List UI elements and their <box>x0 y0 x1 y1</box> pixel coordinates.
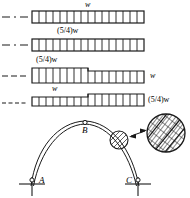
course-2-bricks <box>32 39 144 51</box>
course-3-bricks <box>32 68 144 83</box>
course-3-top-label: (5/4)w <box>36 56 57 64</box>
detail-callout-circle <box>106 124 130 152</box>
detail-arrow-head-left <box>129 134 136 139</box>
course-4-right-label: (5/4)w <box>148 96 169 104</box>
brick-arch-figure: w (5/4)w (5/4)w w w (5/4)w A B C <box>0 0 190 198</box>
arch-point-a-label: A <box>39 176 45 185</box>
course-2-top-label: (5/4)w <box>57 27 78 35</box>
arch-point-b-marker <box>83 120 87 124</box>
course-3-right-label: w <box>150 72 155 80</box>
arch-point-c-marker <box>136 178 140 182</box>
arch-point-b-label: B <box>82 126 88 135</box>
detail-magnified-circle <box>143 110 188 158</box>
detail-arrow-head-right <box>140 129 147 134</box>
arch-point-c-label: C <box>126 176 132 185</box>
course-4-bricks <box>32 94 144 106</box>
course-1-top-label: w <box>85 1 90 9</box>
course-1-bricks <box>32 11 144 23</box>
arch-point-a-marker <box>30 178 34 182</box>
course-4-top-label: w <box>52 85 57 93</box>
